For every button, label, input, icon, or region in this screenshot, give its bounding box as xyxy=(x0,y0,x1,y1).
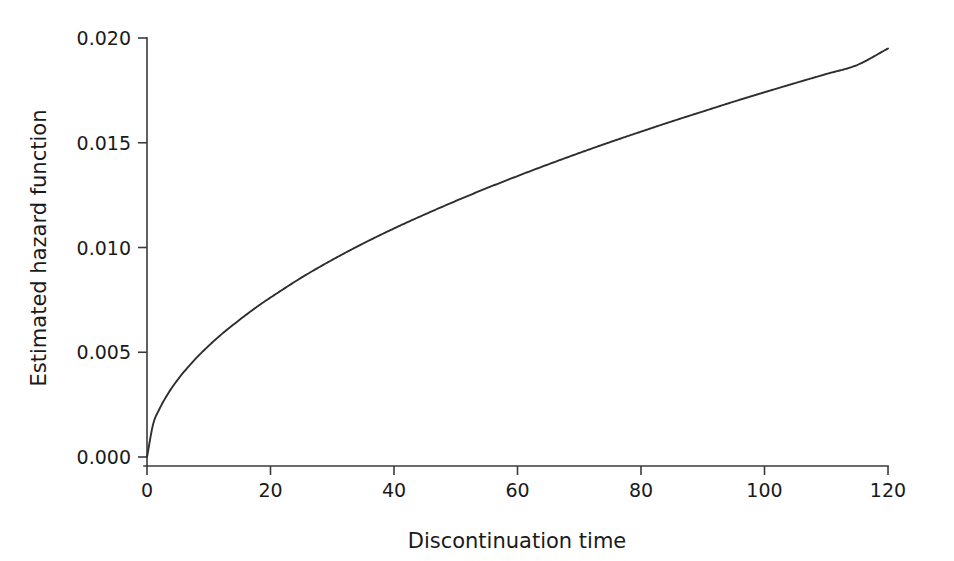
x-tick-label: 80 xyxy=(629,479,653,501)
y-axis-ticks xyxy=(138,38,147,457)
x-tick-label: 60 xyxy=(505,479,529,501)
x-axis-title: Discontinuation time xyxy=(408,529,627,553)
y-tick-label: 0.015 xyxy=(77,132,131,154)
y-axis-title: Estimated hazard function xyxy=(27,110,51,387)
chart-figure: 0.0000.0050.0100.0150.020 02040608010012… xyxy=(0,0,954,561)
x-tick-label: 20 xyxy=(258,479,282,501)
x-tick-label: 40 xyxy=(382,479,406,501)
x-axis-ticks xyxy=(147,466,888,475)
hazard-function-plot: 0.0000.0050.0100.0150.020 02040608010012… xyxy=(0,0,954,561)
y-tick-label: 0.010 xyxy=(77,237,131,259)
x-tick-label: 100 xyxy=(746,479,782,501)
hazard-curve xyxy=(147,48,888,457)
y-tick-label: 0.000 xyxy=(77,446,131,468)
y-tick-label: 0.020 xyxy=(77,27,131,49)
x-tick-label: 120 xyxy=(870,479,906,501)
x-tick-label: 0 xyxy=(141,479,153,501)
x-axis-tick-labels: 020406080100120 xyxy=(141,479,906,501)
y-tick-label: 0.005 xyxy=(77,341,131,363)
y-axis-tick-labels: 0.0000.0050.0100.0150.020 xyxy=(77,27,131,468)
